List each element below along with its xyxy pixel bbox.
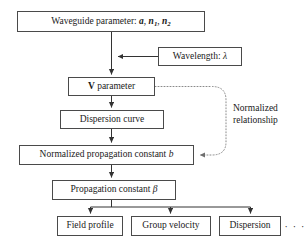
symbol-lambda: λ <box>223 51 227 61</box>
symbol-b: b <box>169 149 174 159</box>
node-waveguide-parameter[interactable]: Waveguide parameter: a, n1, n2 <box>17 11 205 32</box>
node-v-parameter-label: V parameter <box>88 82 135 92</box>
node-normalized-propagation-constant-label: Normalized propagation constant b <box>40 150 174 160</box>
node-dispersion-curve[interactable]: Dispersion curve <box>60 110 164 129</box>
node-field-profile-label: Field profile <box>66 221 113 231</box>
node-propagation-constant-label: Propagation constant β <box>70 185 157 195</box>
symbol-beta: β <box>153 184 158 194</box>
node-dispersion[interactable]: Dispersion <box>219 216 281 236</box>
label-normalized-relationship-line1: Normalized <box>233 103 305 115</box>
node-dispersion-curve-label: Dispersion curve <box>80 115 145 125</box>
node-wavelength[interactable]: Wavelength: λ <box>158 47 242 66</box>
node-dispersion-label: Dispersion <box>229 221 270 231</box>
symbol-v: V <box>88 81 95 91</box>
node-wavelength-label: Wavelength: λ <box>173 52 227 62</box>
label-normalized-relationship: Normalized relationship <box>233 103 305 126</box>
node-group-velocity-label: Group velocity <box>142 221 199 231</box>
ellipsis-continuation: · · · <box>284 216 306 236</box>
node-normalized-propagation-constant[interactable]: Normalized propagation constant b <box>19 145 194 165</box>
label-normalized-relationship-line2: relationship <box>233 115 305 127</box>
subscript-1: 1 <box>154 20 157 27</box>
node-v-parameter[interactable]: V parameter <box>68 77 155 96</box>
node-propagation-constant[interactable]: Propagation constant β <box>52 180 176 200</box>
node-waveguide-parameter-label: Waveguide parameter: a, n1, n2 <box>51 17 171 27</box>
flowchart-diagram: Waveguide parameter: a, n1, n2 Wavelengt… <box>0 0 307 247</box>
subscript-2: 2 <box>167 20 170 27</box>
node-field-profile[interactable]: Field profile <box>57 216 123 236</box>
node-group-velocity[interactable]: Group velocity <box>131 216 211 236</box>
